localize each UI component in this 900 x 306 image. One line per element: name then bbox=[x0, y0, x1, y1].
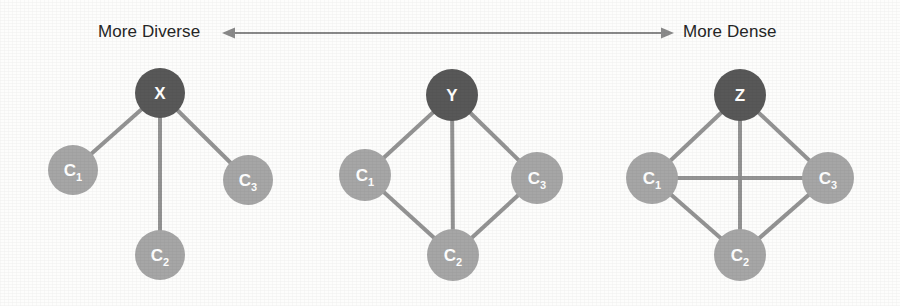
graph-node-c3[interactable]: C3 bbox=[802, 152, 854, 204]
node-label-subscript: 1 bbox=[655, 179, 661, 191]
graph-node-c1[interactable]: C1 bbox=[626, 152, 678, 204]
double-headed-arrow bbox=[222, 28, 674, 39]
graph-y: YC1C2C3 bbox=[339, 69, 563, 281]
graph-node-c3[interactable]: C3 bbox=[223, 155, 273, 205]
graph-node-c3[interactable]: C3 bbox=[511, 152, 563, 204]
node-label-subscript: 2 bbox=[743, 256, 749, 268]
figure-canvas: More Diverse More Dense XC1C2C3YC1C2C3ZC… bbox=[0, 0, 900, 306]
node-label-subscript: 3 bbox=[251, 181, 257, 193]
node-label-subscript: 2 bbox=[456, 256, 462, 268]
node-label: Y bbox=[446, 86, 458, 105]
graph-node-x[interactable]: X bbox=[135, 68, 185, 118]
node-label-subscript: 1 bbox=[368, 176, 374, 188]
node-label: Z bbox=[735, 86, 745, 105]
graph-diagram: XC1C2C3YC1C2C3ZC1C2C3 bbox=[0, 0, 900, 306]
node-label: X bbox=[154, 84, 166, 103]
graph-node-z[interactable]: Z bbox=[714, 69, 766, 121]
graph-node-c1[interactable]: C1 bbox=[339, 149, 391, 201]
graph-z: ZC1C2C3 bbox=[626, 69, 854, 281]
node-label-subscript: 3 bbox=[540, 179, 546, 191]
node-label-subscript: 1 bbox=[76, 171, 82, 183]
graph-node-c2[interactable]: C2 bbox=[427, 229, 479, 281]
graph-node-y[interactable]: Y bbox=[426, 69, 478, 121]
graph-node-c2[interactable]: C2 bbox=[714, 229, 766, 281]
graph-node-c2[interactable]: C2 bbox=[135, 230, 185, 280]
node-label-subscript: 3 bbox=[831, 179, 837, 191]
graph-x: XC1C2C3 bbox=[48, 68, 273, 280]
graph-node-c1[interactable]: C1 bbox=[48, 145, 98, 195]
node-label-subscript: 2 bbox=[163, 256, 169, 268]
